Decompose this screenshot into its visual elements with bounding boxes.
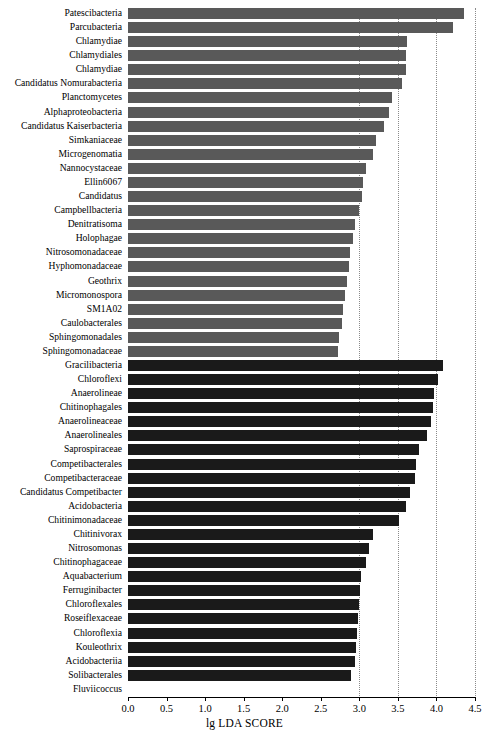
bar xyxy=(128,557,366,568)
bar-row: Chitinophagaceae xyxy=(0,557,489,568)
bar xyxy=(128,402,433,413)
bar-row: Simkaniaceae xyxy=(0,135,489,146)
category-label: Caulobacterales xyxy=(0,317,122,329)
category-label: Micromonospora xyxy=(0,289,122,301)
category-label: Chitinophagaceae xyxy=(0,556,122,568)
bar-row: Acidobacteria xyxy=(0,501,489,512)
category-label: Parcubacteria xyxy=(0,21,122,33)
bar xyxy=(128,642,356,653)
bar xyxy=(128,346,338,357)
category-label: Holophagae xyxy=(0,232,122,244)
bar xyxy=(128,219,355,230)
category-label: Nannocystaceae xyxy=(0,162,122,174)
category-label: Chitinivorax xyxy=(0,528,122,540)
bar xyxy=(128,543,369,554)
bar-row: Fluviicoccus xyxy=(0,684,489,695)
category-label: Roseiflexaceae xyxy=(0,612,122,624)
x-tick-label: 2.0 xyxy=(262,702,302,715)
bar xyxy=(128,501,406,512)
bar-row: Nitrosomonas xyxy=(0,543,489,554)
x-tick-label: 3.0 xyxy=(339,702,379,715)
x-tick-0-0 xyxy=(128,697,129,701)
category-label: Competibacterales xyxy=(0,458,122,470)
category-label: Nitrosomonas xyxy=(0,542,122,554)
bar-row: Chloroflexia xyxy=(0,628,489,639)
bar-row: Aquabacterium xyxy=(0,571,489,582)
bar xyxy=(128,430,427,441)
category-label: Acidobacteria xyxy=(0,500,122,512)
category-label: Nitrosomonadaceae xyxy=(0,246,122,258)
bar-row: Nannocystaceae xyxy=(0,163,489,174)
x-tick-label: 1.0 xyxy=(185,702,225,715)
bar-row: Candidatus Nomurabacteria xyxy=(0,78,489,89)
bar-row: Holophagae xyxy=(0,233,489,244)
bar xyxy=(128,233,353,244)
bar-row: Candidatus Kaiserbacteria xyxy=(0,121,489,132)
x-tick-0-5 xyxy=(167,697,168,701)
category-label: Acidobacteriia xyxy=(0,655,122,667)
bar-row: SM1A02 xyxy=(0,304,489,315)
bar xyxy=(128,247,350,258)
bar xyxy=(128,529,373,540)
bar-row: Solibacterales xyxy=(0,670,489,681)
bar-row: Hyphomonadaceae xyxy=(0,261,489,272)
bar xyxy=(128,613,358,624)
bar xyxy=(128,656,355,667)
bar-row: Competibacteraceae xyxy=(0,473,489,484)
bar xyxy=(128,318,342,329)
bar-row: Gracilibacteria xyxy=(0,360,489,371)
category-label: Alphaproteobacteria xyxy=(0,106,122,118)
bar xyxy=(128,64,406,75)
bar-row: Candidatus Competibacter xyxy=(0,487,489,498)
x-tick-label: 3.5 xyxy=(378,702,418,715)
category-label: Candidatus Nomurabacteria xyxy=(0,77,122,89)
bar xyxy=(128,50,406,61)
x-tick-label: 4.5 xyxy=(455,702,489,715)
x-tick-4-5 xyxy=(475,697,476,701)
category-label: Microgenomatia xyxy=(0,148,122,160)
bar-row: Chlamydiae xyxy=(0,36,489,47)
bar xyxy=(128,628,357,639)
bar xyxy=(128,276,347,287)
bar xyxy=(128,107,389,118)
category-label: Anaerolineae xyxy=(0,387,122,399)
category-label: Hyphomonadaceae xyxy=(0,260,122,272)
bar-row: Chitinivorax xyxy=(0,529,489,540)
x-tick-label: 4.0 xyxy=(416,702,456,715)
bar xyxy=(128,290,345,301)
bar xyxy=(128,191,362,202)
bar xyxy=(128,332,339,343)
bar-row: Alphaproteobacteria xyxy=(0,107,489,118)
bar-row: Microgenomatia xyxy=(0,149,489,160)
bar xyxy=(128,304,343,315)
category-label: Aquabacterium xyxy=(0,570,122,582)
bar xyxy=(128,205,359,216)
bar-row: Chitinophagales xyxy=(0,402,489,413)
bar xyxy=(128,571,361,582)
category-label: Sphingomonadaceae xyxy=(0,345,122,357)
bar-row: Parcubacteria xyxy=(0,22,489,33)
x-tick-1-5 xyxy=(244,697,245,701)
bar-row: Sphingomonadaceae xyxy=(0,346,489,357)
bar xyxy=(128,149,373,160)
x-axis-title: lg LDA SCORE xyxy=(0,717,489,729)
bar-row: Chitinimonadaceae xyxy=(0,515,489,526)
bar xyxy=(128,388,434,399)
bar xyxy=(128,177,363,188)
category-label: Candidatus Kaiserbacteria xyxy=(0,120,122,132)
category-label: Competibacteraceae xyxy=(0,472,122,484)
lda-score-bar-chart: lg LDA SCORE 0.00.51.01.52.02.53.03.54.0… xyxy=(0,0,489,743)
bar-row: Nitrosomonadaceae xyxy=(0,247,489,258)
bar xyxy=(128,599,359,610)
category-label: Ferruginibacter xyxy=(0,584,122,596)
bar-row: Denitratisoma xyxy=(0,219,489,230)
bar-row: Planctomycetes xyxy=(0,92,489,103)
bar-row: Sphingomonadales xyxy=(0,332,489,343)
bar xyxy=(128,515,399,526)
bar-row: Ellin6067 xyxy=(0,177,489,188)
category-label: Campbellbacteria xyxy=(0,204,122,216)
x-tick-1-0 xyxy=(205,697,206,701)
x-tick-label: 1.5 xyxy=(224,702,264,715)
category-label: Ellin6067 xyxy=(0,176,122,188)
bar-row: Acidobacteriia xyxy=(0,656,489,667)
